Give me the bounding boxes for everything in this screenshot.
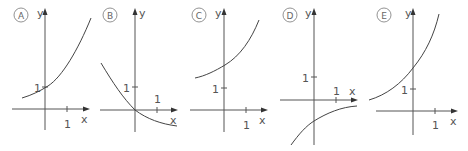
x-arrow-icon bbox=[171, 108, 178, 113]
y-label: y bbox=[215, 7, 222, 20]
graph-label: C bbox=[196, 11, 202, 21]
x-label: x bbox=[259, 114, 266, 127]
graph-e: E y x 1 1 bbox=[368, 0, 462, 151]
graph-e-svg: E y x 1 1 bbox=[368, 0, 468, 151]
graph-a: A y x 1 1 bbox=[0, 0, 94, 151]
graph-b: B y x 1 1 bbox=[95, 0, 189, 151]
x-tick-label: 1 bbox=[333, 85, 340, 98]
curve bbox=[22, 18, 91, 98]
graph-label: E bbox=[381, 11, 387, 21]
y-arrow-icon bbox=[222, 8, 227, 15]
x-tick-label: 1 bbox=[243, 119, 250, 132]
graph-label: B bbox=[107, 11, 113, 21]
x-tick-label: 1 bbox=[154, 93, 161, 106]
y-tick-label: 1 bbox=[302, 72, 309, 85]
graph-label: A bbox=[18, 11, 25, 21]
x-arrow-icon bbox=[261, 108, 268, 113]
curve bbox=[195, 20, 259, 78]
y-label: y bbox=[37, 7, 44, 20]
curve bbox=[101, 63, 177, 126]
y-arrow-icon bbox=[133, 8, 138, 15]
x-tick-label: 1 bbox=[64, 118, 71, 131]
graph-label: D bbox=[287, 11, 294, 21]
y-label: y bbox=[139, 7, 146, 20]
y-label: y bbox=[305, 7, 312, 20]
graph-b-svg: B y x 1 1 bbox=[95, 0, 189, 151]
graph-a-svg: A y x 1 1 bbox=[0, 0, 94, 151]
curve bbox=[291, 106, 357, 145]
x-label: x bbox=[450, 115, 457, 128]
y-arrow-icon bbox=[312, 8, 317, 15]
x-arrow-icon bbox=[351, 98, 358, 103]
graph-c-svg: C y x 1 1 bbox=[185, 0, 279, 151]
x-label: x bbox=[81, 113, 88, 126]
graph-d: D y x 1 1 bbox=[275, 0, 369, 151]
graph-d-svg: D y x 1 1 bbox=[275, 0, 369, 151]
y-label: y bbox=[405, 7, 412, 20]
y-tick-label: 1 bbox=[401, 84, 408, 97]
x-arrow-icon bbox=[83, 107, 90, 112]
graph-c: C y x 1 1 bbox=[185, 0, 279, 151]
x-tick-label: 1 bbox=[432, 119, 439, 132]
y-tick-label: 1 bbox=[212, 83, 219, 96]
x-label: x bbox=[349, 85, 356, 98]
y-tick-label: 1 bbox=[123, 82, 130, 95]
x-arrow-icon bbox=[451, 109, 458, 114]
